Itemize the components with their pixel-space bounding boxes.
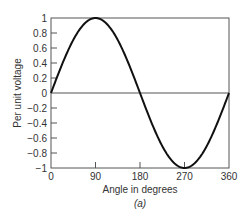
y-tick-label: −0.8 bbox=[27, 148, 47, 159]
y-axis-label: Per unit voltage bbox=[12, 58, 23, 128]
y-tick-label: 0.8 bbox=[33, 28, 47, 39]
y-tick-label: 0.2 bbox=[33, 73, 47, 84]
chart-canvas: 10.80.60.40.20−0.2−0.4−0.6−0.8−1 0901802… bbox=[0, 0, 251, 219]
x-tick-label: 180 bbox=[132, 171, 149, 182]
y-tick-label: −1 bbox=[36, 163, 48, 174]
y-tick-label: −0.4 bbox=[27, 118, 47, 129]
y-tick-label: 0 bbox=[41, 88, 47, 99]
x-tick-label: 90 bbox=[90, 171, 102, 182]
figure-caption: (a) bbox=[134, 198, 146, 209]
y-tick-label: −0.6 bbox=[27, 133, 47, 144]
x-axis-label: Angle in degrees bbox=[102, 184, 177, 195]
x-axis-ticks: 090180270360 bbox=[48, 162, 238, 182]
x-tick-label: 270 bbox=[176, 171, 193, 182]
y-tick-label: 0.6 bbox=[33, 43, 47, 54]
y-tick-label: −0.2 bbox=[27, 103, 47, 114]
y-tick-label: 0.4 bbox=[33, 58, 47, 69]
y-tick-label: 1 bbox=[41, 13, 47, 24]
x-tick-label: 360 bbox=[221, 171, 238, 182]
x-tick-label: 0 bbox=[48, 171, 54, 182]
